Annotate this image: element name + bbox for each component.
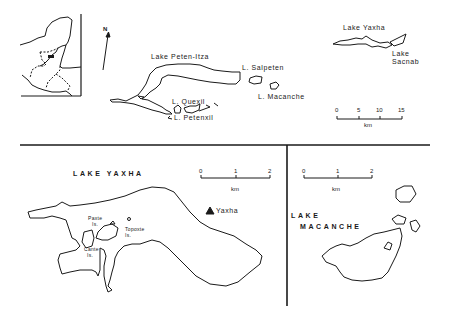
overview-scale-tick-5: 5 [357,107,360,114]
macanche-scale-tick-2: 2 [370,168,373,175]
label-macanche: L. Macanche [258,93,305,101]
macanche-scale-bar [304,175,372,178]
label-petenxil: L. Petenxil [174,114,213,122]
lake-peten-itza-outline [110,64,240,114]
overview-scale-bar [337,116,402,119]
yaxha-scale-tick-0: 0 [199,168,202,175]
overview-scale-tick-0: 0 [335,107,338,114]
macanche-scale-unit: km [332,186,340,193]
label-topoxte-line2: Is. [125,232,131,238]
lake-salpeten-outline [249,76,262,84]
lake-yaxha-detail-outline [28,187,262,292]
macanche-title-line2: MACANCHE [300,223,362,231]
north-arrow-icon [103,32,110,70]
overview-scale-tick-10: 10 [376,107,383,114]
yaxha-scale-tick-2: 2 [268,168,271,175]
map-figure [0,0,449,314]
label-lake-peten-itza: Lake Peten-Itza [151,53,209,61]
macanche-pond-2-outline [392,215,406,224]
lake-macanche-detail-outline [322,228,402,281]
lake-petenxil-outline [174,105,181,113]
north-label: N [103,25,108,33]
yaxha-scale-bar [201,175,270,178]
macanche-pond-1-outline [396,186,416,202]
yaxha-site-triangle-icon [206,207,214,214]
macanche-title-line1: LAKE [291,212,320,220]
macanche-scale-tick-0: 0 [302,168,305,175]
topoxte-island-outline [96,224,118,240]
macanche-scale-tick-1: 1 [336,168,339,175]
yaxha-scale-tick-1: 1 [234,168,237,175]
label-sacnab-line1: Lake [392,50,410,58]
inset-locator-map [20,14,81,96]
yaxha-scale-unit: km [231,186,239,193]
lake-sacnab-small-outline [390,34,406,46]
macanche-pond-3-outline [410,220,420,232]
yaxha-panel-title: LAKE YAXHA [73,170,144,178]
overview-scale-tick-15: 15 [398,107,405,114]
label-salpeten: L. Salpeten [242,64,284,72]
overview-scale-unit: km [364,122,372,129]
label-paxte-line2: Is. [92,221,98,227]
label-quexil: L. Quexil [172,98,205,106]
lake-macanche-small-outline [270,82,279,89]
label-cante-line2: Is. [87,252,93,258]
label-yaxha-site: Yaxha [216,207,238,215]
label-lake-yaxha-small: Lake Yaxha [343,24,385,32]
lake-yaxha-small-outline [333,36,392,48]
label-sacnab-line2: Sacnab [392,58,419,66]
